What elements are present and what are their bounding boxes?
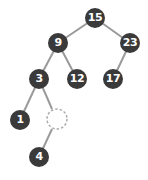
node-label-15: 15	[84, 7, 106, 29]
node-label-1: 1	[9, 109, 31, 131]
node-empty-placeholder	[47, 109, 67, 129]
node-label-9: 9	[47, 32, 69, 54]
node-label-4: 4	[28, 146, 50, 168]
tree-diagram	[0, 0, 148, 180]
node-label-23: 23	[119, 32, 141, 54]
node-label-3: 3	[28, 68, 50, 90]
node-label-17: 17	[102, 68, 124, 90]
node-label-12: 12	[66, 68, 88, 90]
